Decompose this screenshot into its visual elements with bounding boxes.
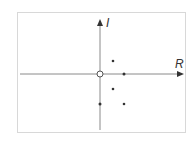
point-p5 bbox=[123, 103, 126, 106]
real-axis-label: R bbox=[175, 57, 184, 71]
real-axis-arrow-icon bbox=[177, 71, 184, 77]
origin-marker bbox=[97, 71, 103, 77]
point-p3 bbox=[112, 88, 115, 91]
point-p1 bbox=[112, 60, 115, 63]
point-p2 bbox=[123, 73, 126, 76]
complex-plane-diagram: I R bbox=[0, 0, 192, 141]
imag-axis-arrow-icon bbox=[97, 19, 103, 26]
imag-axis-label: I bbox=[106, 16, 110, 30]
point-p4 bbox=[99, 103, 102, 106]
